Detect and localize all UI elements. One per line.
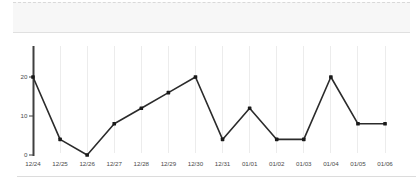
x-axis-label: 01/06 [377,160,393,167]
data-point [329,75,333,79]
data-point [31,75,35,79]
x-axis-label: 12/28 [134,160,150,167]
y-axis-label: 10 [21,112,28,119]
data-point [112,122,116,126]
x-axis-label: 12/30 [188,160,204,167]
data-point [248,106,252,110]
data-point [167,91,171,95]
x-axis-label: 12/31 [215,160,231,167]
data-point [356,122,360,126]
y-axis-label: 20 [21,73,28,80]
x-axis-label: 01/03 [296,160,312,167]
x-axis-label: 12/24 [25,160,41,167]
x-axis-label: 12/26 [79,160,95,167]
x-axis-label: 12/29 [161,160,177,167]
x-axis-label: 12/27 [106,160,122,167]
x-axis-label: 01/04 [323,160,339,167]
data-point [85,153,89,157]
data-point [275,138,279,142]
data-line [33,77,385,155]
x-axis-label: 12/25 [52,160,68,167]
bottom-divider [17,176,416,177]
data-point [194,75,198,79]
x-axis-label: 01/05 [350,160,366,167]
line-chart: 12/2412/2512/2612/2712/2812/2912/3012/31… [0,0,416,186]
data-point [140,106,144,110]
page: 12/2412/2512/2612/2712/2812/2912/3012/31… [0,0,416,186]
data-point [383,122,387,126]
data-point [58,138,62,142]
y-axis-label: 0 [24,151,28,158]
data-point [221,138,225,142]
data-point [302,138,306,142]
x-axis-label: 01/02 [269,160,285,167]
x-axis-label: 01/01 [242,160,258,167]
